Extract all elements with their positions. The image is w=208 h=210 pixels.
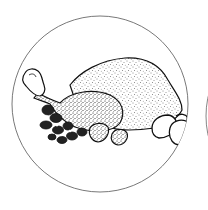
roast-turkey-illustration [0,0,208,210]
adjacent-circle-partial [206,26,208,206]
